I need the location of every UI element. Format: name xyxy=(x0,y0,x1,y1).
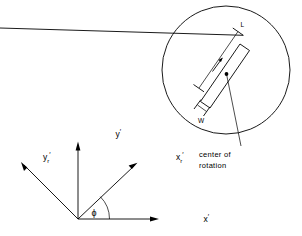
phi-angle-label: ϕ xyxy=(92,208,97,218)
rotating-element-rectangle xyxy=(201,44,250,108)
axis-x-prime xyxy=(78,217,159,222)
center-of-rotation-dot xyxy=(225,72,229,76)
axis-label-y-rotated-prime: yr′ xyxy=(3,143,82,164)
svg-text:x′: x′ xyxy=(164,205,241,225)
center-of-rotation-callout-line2: rotation xyxy=(199,161,226,170)
axis-x-rotated-prime xyxy=(78,163,138,219)
length-dimension: L xyxy=(0,21,245,92)
callout-leader-line xyxy=(227,76,241,147)
technical-diagram: L W center of rotation xyxy=(0,0,302,236)
axis-label-x-prime: x′ xyxy=(164,205,241,225)
axis-label-y-rotated-subscript: r xyxy=(47,158,49,164)
axis-label-y-prime-mark: ′ xyxy=(120,128,122,135)
axis-label-x-rotated-prime-mark: ′ xyxy=(182,151,184,158)
axis-label-y-rotated-prime-mark: ′ xyxy=(49,151,51,158)
length-dimension-label: L xyxy=(241,21,245,28)
direction-arrow-icon xyxy=(213,57,223,71)
axis-label-x-rotated-subscript: r xyxy=(180,158,182,164)
axis-label-y-prime: y′ xyxy=(76,120,153,140)
svg-text:y′: y′ xyxy=(76,120,153,140)
phi-angle-arc xyxy=(100,197,109,219)
width-dimension: W xyxy=(194,100,210,124)
detail-view-circle xyxy=(162,6,290,134)
axis-label-x-prime-mark: ′ xyxy=(208,213,210,220)
svg-text:yr′: yr′ xyxy=(3,143,82,164)
figure-container: L W center of rotation xyxy=(0,0,302,236)
width-dimension-label: W xyxy=(198,117,205,124)
axis-y-rotated-prime xyxy=(21,162,78,219)
